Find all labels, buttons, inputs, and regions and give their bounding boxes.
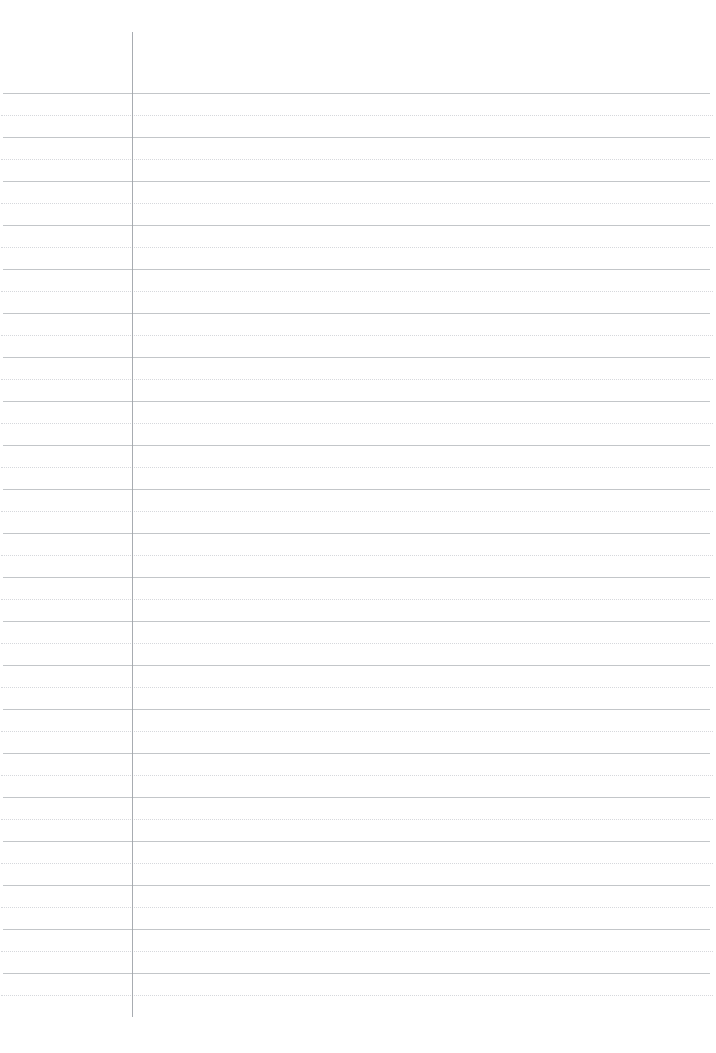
writing-area[interactable]	[133, 0, 716, 1053]
notebook-paper-sheet	[0, 0, 716, 1053]
